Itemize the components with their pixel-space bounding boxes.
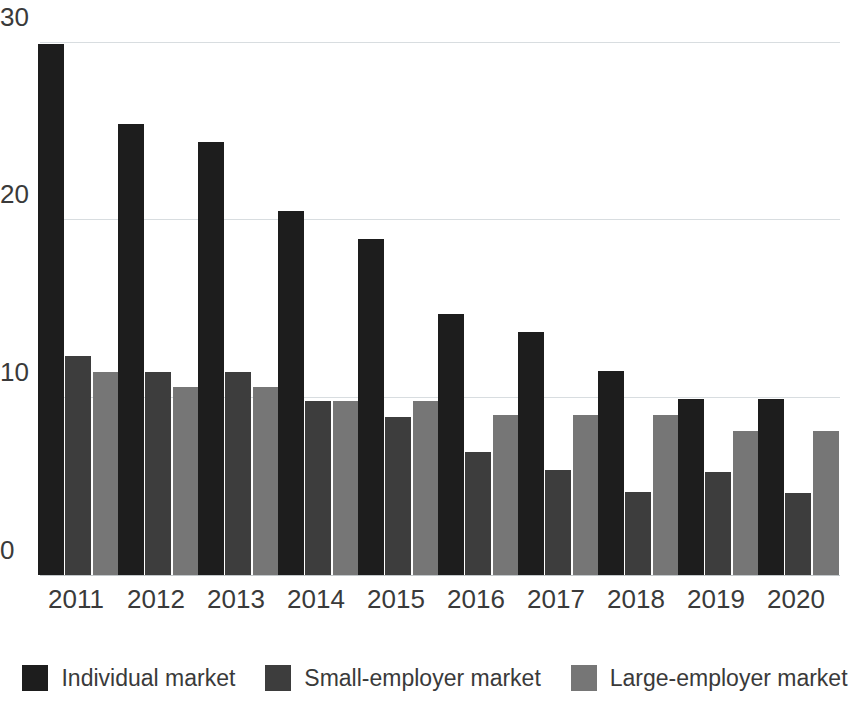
bar-2015-series-0[interactable]: [358, 239, 384, 575]
bar-2015-series-2[interactable]: [413, 401, 439, 575]
bar-group-2015: [358, 42, 439, 575]
bar-2018-series-0[interactable]: [598, 371, 624, 575]
legend-item-1[interactable]: Small-employer market: [265, 665, 540, 691]
bar-2020-series-2[interactable]: [813, 431, 839, 575]
legend-label-0: Individual market: [61, 665, 235, 691]
bar-group-2020: [758, 42, 839, 575]
y-tick-label-30: 30: [0, 4, 34, 30]
x-tick-label-2020: 2020: [756, 583, 836, 615]
x-tick-label-2011: 2011: [36, 583, 116, 615]
bar-2018-series-2[interactable]: [653, 415, 679, 575]
bar-2011-series-1[interactable]: [65, 356, 91, 575]
bar-2016-series-1[interactable]: [465, 452, 491, 575]
bar-2013-series-2[interactable]: [253, 387, 279, 575]
bar-group-2016: [438, 42, 519, 575]
bar-2018-series-1[interactable]: [625, 492, 651, 576]
bar-2011-series-2[interactable]: [93, 372, 119, 575]
bar-2020-series-0[interactable]: [758, 399, 784, 575]
x-tick-label-2019: 2019: [676, 583, 756, 615]
y-tick-label-0: 0: [0, 537, 34, 563]
chart-legend: Individual marketSmall-employer marketLa…: [40, 655, 830, 701]
bar-2019-series-1[interactable]: [705, 472, 731, 575]
x-tick-label-2012: 2012: [116, 583, 196, 615]
bar-2014-series-0[interactable]: [278, 211, 304, 575]
x-axis-labels: 2011201220132014201520162017201820192020: [40, 583, 840, 623]
bar-2011-series-0[interactable]: [38, 44, 64, 575]
bar-2017-series-1[interactable]: [545, 470, 571, 575]
bar-2019-series-2[interactable]: [733, 431, 759, 575]
bar-2015-series-1[interactable]: [385, 417, 411, 575]
bar-2017-series-0[interactable]: [518, 332, 544, 575]
bar-group-2017: [518, 42, 599, 575]
bar-2014-series-1[interactable]: [305, 401, 331, 575]
x-tick-label-2017: 2017: [516, 583, 596, 615]
bar-2017-series-2[interactable]: [573, 415, 599, 575]
legend-swatch-icon-0: [22, 665, 48, 691]
x-tick-label-2013: 2013: [196, 583, 276, 615]
bar-2016-series-0[interactable]: [438, 314, 464, 575]
bar-2016-series-2[interactable]: [493, 415, 519, 575]
x-tick-label-2015: 2015: [356, 583, 436, 615]
bar-2013-series-0[interactable]: [198, 142, 224, 576]
bar-2014-series-2[interactable]: [333, 401, 359, 575]
bar-2012-series-2[interactable]: [173, 387, 199, 575]
legend-label-2: Large-employer market: [610, 665, 848, 691]
bar-group-2018: [598, 42, 679, 575]
bar-2020-series-1[interactable]: [785, 493, 811, 575]
x-tick-label-2016: 2016: [436, 583, 516, 615]
y-tick-label-10: 10: [0, 359, 34, 385]
legend-swatch-icon-2: [571, 665, 597, 691]
bar-2012-series-1[interactable]: [145, 372, 171, 575]
legend-item-0[interactable]: Individual market: [22, 665, 235, 691]
y-tick-label-20: 20: [0, 181, 34, 207]
x-tick-label-2018: 2018: [596, 583, 676, 615]
legend-item-2[interactable]: Large-employer market: [571, 665, 848, 691]
bar-group-2012: [118, 42, 199, 575]
bars-layer: [40, 42, 840, 575]
bar-group-2019: [678, 42, 759, 575]
bar-group-2013: [198, 42, 279, 575]
axis-baseline: [40, 575, 840, 576]
legend-swatch-icon-1: [265, 665, 291, 691]
bar-chart: 30 20 10 0 20112012201320142015201620172…: [0, 0, 852, 727]
bar-group-2011: [38, 42, 119, 575]
bar-2012-series-0[interactable]: [118, 124, 144, 575]
bar-group-2014: [278, 42, 359, 575]
legend-label-1: Small-employer market: [304, 665, 540, 691]
bar-2019-series-0[interactable]: [678, 399, 704, 575]
bar-2013-series-1[interactable]: [225, 372, 251, 575]
x-tick-label-2014: 2014: [276, 583, 356, 615]
